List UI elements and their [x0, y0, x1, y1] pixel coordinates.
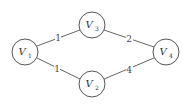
node-v4-subscript: 4 [169, 52, 173, 59]
edge-weight-v1-v2: 1 [54, 64, 60, 74]
node-v4: V 4 [153, 39, 179, 65]
edge-weight-v1-v3: 1 [55, 33, 61, 43]
node-v1: V 1 [12, 39, 38, 65]
node-v3-subscript: 3 [95, 25, 99, 32]
edge-weight-v2-v4: 4 [126, 65, 132, 75]
node-v2-subscript: 2 [95, 84, 99, 91]
node-v1-subscript: 1 [28, 52, 32, 59]
node-v2: V 2 [79, 71, 105, 97]
graph-diagram: 1 1 2 4 V 1 V 3 V 2 V 4 [0, 0, 189, 108]
edge-weight-v3-v4: 2 [126, 34, 132, 44]
node-v3: V 3 [79, 12, 105, 38]
